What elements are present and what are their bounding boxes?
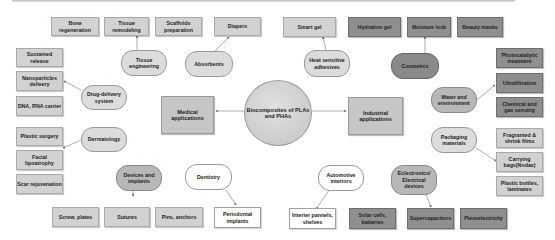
interior-panels-label: Interier pannels, shelves — [290, 212, 335, 225]
automotive-interiors-label: Automotive interiors — [319, 172, 363, 185]
screw-plates-label: Screw, plates — [59, 214, 93, 220]
tissue-remodeling-label: Tissue remodeling — [105, 20, 148, 33]
nanoparticles-delivery-label: Nanoparticles delivery — [17, 75, 62, 88]
hydration-gel-label: Hydration gel — [358, 24, 392, 30]
heat-sensitive-adhesives-label: Heat sensitive adhesives — [305, 57, 349, 70]
automotive-interiors-node: Automotive interiors — [318, 165, 364, 191]
periodontal-implants-box: Periodontal implants — [214, 207, 261, 228]
scar-rejuvenation-label: Scar rejuvenation — [17, 181, 61, 187]
water-environment-node: Water and environment — [431, 87, 477, 113]
carrying-bags-label: Carrying bags(Nodax) — [497, 156, 542, 169]
dentistry-label: Dentistry — [197, 174, 220, 180]
ultrafiltration-label: Ultrafiltration — [503, 80, 536, 86]
scaffolds-preparation-box: Scaffolds preparation — [155, 17, 202, 36]
drug-delivery-label: Drug-delivery system — [82, 91, 126, 104]
chemical-gas-sensing-box: Chemical and gas sensing — [496, 97, 543, 117]
beauty-masks-label: Beauty masks — [462, 24, 498, 30]
solar-cells-batteries-box: Solar cells, batteries — [349, 208, 396, 229]
sustained-release-label: Sustained release — [17, 51, 62, 64]
industrial-label: Industrial applications — [349, 110, 402, 123]
diapers-label: Diapers — [228, 23, 247, 29]
electronics-devices-node: Eclectronics/ Electrical devices — [391, 165, 437, 195]
plastic-bottles-box: Plastic bottles, laminates — [496, 176, 543, 196]
tissue-engineering-label: Tissue engineering — [122, 57, 166, 70]
nanoparticles-delivery-box: Nanoparticles delivery — [16, 71, 63, 91]
hydration-gel-box: Hydration gel — [348, 17, 401, 37]
piezoelectricity-box: Piezoelectricity — [460, 208, 507, 229]
absorbents-label: Absorbents — [194, 61, 223, 67]
facial-lipoatrophy-box: Facial lipoatrophy — [16, 150, 63, 170]
dermatology-label: Dermatology — [88, 136, 120, 142]
bone-regeneration-box: Bone regeneration — [51, 17, 99, 36]
packaging-materials-node: Packaging materials — [431, 127, 477, 153]
pins-anchors-label: Pins, anchors — [162, 214, 197, 220]
moisture-lock-box: Moisture lock — [407, 17, 451, 37]
piezoelectricity-label: Piezoelectricity — [464, 215, 503, 221]
electronics-devices-label: Eclectronics/ Electrical devices — [392, 170, 436, 189]
chemical-gas-sensing-label: Chemical and gas sensing — [497, 101, 542, 114]
interior-panels-box: Interier pannels, shelves — [289, 208, 336, 229]
plastic-bottles-label: Plastic bottles, laminates — [497, 180, 542, 193]
dna-rna-carrier-label: DNA, RNA carrier — [18, 103, 62, 109]
absorbents-node: Absorbents — [185, 51, 233, 77]
medical-applications-box: Medical applications — [161, 96, 214, 134]
drug-delivery-node: Drug-delivery system — [81, 85, 127, 110]
supercapacitors-label: Supercapacitors — [410, 215, 452, 221]
scaffolds-preparation-label: Scaffolds preparation — [156, 20, 201, 33]
devices-implants-node: Devices and implants — [116, 165, 162, 191]
supercapacitors-box: Supercapacitors — [407, 208, 454, 229]
photocatalytic-treatment-label: Photocatalytic treatment — [497, 52, 542, 65]
sutures-label: Sutures — [117, 214, 137, 220]
solar-cells-batteries-label: Solar cells, batteries — [350, 212, 395, 225]
industrial-applications-box: Industrial applications — [348, 97, 403, 135]
bone-regeneration-label: Bone regeneration — [52, 20, 98, 33]
medical-label: Medical applications — [162, 109, 213, 122]
devices-implants-label: Devices and implants — [117, 172, 161, 185]
pins-anchors-box: Pins, anchors — [155, 207, 203, 227]
ultrafiltration-box: Ultrafiltration — [496, 73, 543, 93]
fragranted-shrink-films-label: Fragranted & shrink films — [497, 132, 542, 145]
periodontal-implants-label: Periodontal implants — [215, 211, 260, 224]
water-environment-label: Water and environment — [432, 94, 476, 107]
screw-plates-box: Screw, plates — [52, 207, 99, 227]
moisture-lock-label: Moisture lock — [412, 24, 446, 30]
smart-gel-label: Smart gel — [297, 24, 321, 30]
sustained-release-box: Sustained release — [16, 48, 63, 67]
carrying-bags-box: Carrying bags(Nodax) — [496, 152, 543, 172]
photocatalytic-treatment-box: Photocatalytic treatment — [496, 48, 543, 68]
cosmetics-label: Cosmetics — [402, 63, 429, 69]
center-node-biocomposites: Biocomposites of PLAs and PHAs — [244, 80, 312, 146]
plastic-surgery-box: Plastic surgery — [16, 127, 63, 146]
sutures-box: Sutures — [104, 207, 150, 227]
heat-sensitive-adhesives-node: Heat sensitive adhesives — [304, 50, 350, 77]
cosmetics-node: Cosmetics — [391, 53, 439, 79]
plastic-surgery-label: Plastic surgery — [21, 133, 59, 139]
dermatology-node: Dermatology — [81, 127, 127, 152]
beauty-masks-box: Beauty masks — [457, 17, 503, 37]
facial-lipoatrophy-label: Facial lipoatrophy — [17, 154, 62, 167]
tissue-remodeling-box: Tissue remodeling — [104, 17, 149, 36]
center-label: Biocomposites of PLAs and PHAs — [245, 107, 311, 120]
diapers-box: Diapers — [214, 17, 261, 36]
smart-gel-box: Smart gel — [283, 17, 336, 37]
fragranted-shrink-films-box: Fragranted & shrink films — [496, 128, 543, 148]
packaging-materials-label: Packaging materials — [432, 134, 476, 147]
dentistry-node: Dentistry — [185, 164, 232, 190]
tissue-engineering-node: Tissue engineering — [121, 50, 167, 76]
dna-rna-carrier-box: DNA, RNA carrier — [16, 96, 63, 116]
scar-rejuvenation-box: Scar rejuvenation — [16, 174, 63, 194]
